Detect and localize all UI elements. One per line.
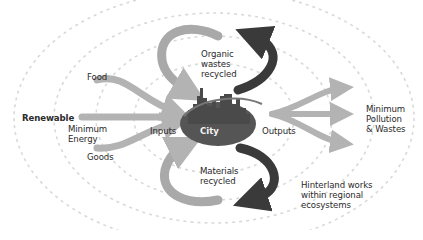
- label-pollution-3: & Wastes: [366, 124, 405, 134]
- label-goods: Goods: [87, 152, 114, 162]
- city-label: City: [200, 126, 219, 136]
- label-materials-2: recycled: [200, 176, 236, 186]
- label-organic-1: Organic: [201, 49, 234, 59]
- label-pollution-1: Minimum: [366, 104, 405, 114]
- label-outputs: Outputs: [262, 126, 296, 136]
- label-renewable: Renewable: [22, 113, 74, 123]
- label-hinterland-3: ecosystems: [301, 200, 351, 210]
- label-food: Food: [87, 72, 107, 82]
- arrow-food: [97, 79, 176, 112]
- label-organic-2: wastes: [201, 59, 230, 69]
- label-materials-1: Materials: [200, 166, 239, 176]
- city-icon: [180, 88, 262, 146]
- label-minimum-energy-1: Minimum: [68, 124, 107, 134]
- label-inputs: Inputs: [150, 126, 176, 136]
- label-hinterland-2: within regional: [301, 190, 363, 200]
- arrow-materials-dark: [240, 148, 274, 200]
- label-hinterland-1: Hinterland works: [301, 180, 372, 190]
- arrow-organic-dark: [238, 36, 273, 90]
- label-pollution-2: Pollution: [366, 114, 402, 124]
- label-minimum-energy-2: Energy: [68, 134, 98, 144]
- label-organic-3: recycled: [201, 69, 237, 79]
